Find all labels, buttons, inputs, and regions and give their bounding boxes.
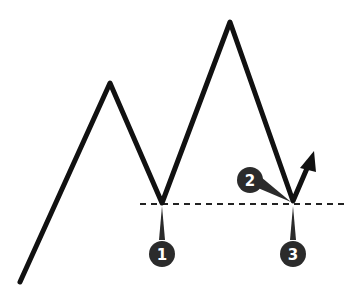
- marker-1: 1: [149, 206, 175, 267]
- marker-2-label: 2: [245, 172, 255, 190]
- marker-1-label: 1: [157, 246, 167, 264]
- arrow-up-icon: [300, 151, 316, 172]
- marker-3: 3: [280, 206, 306, 267]
- marker-3-label: 3: [288, 246, 298, 264]
- pattern-diagram: 1 2 3: [0, 0, 363, 300]
